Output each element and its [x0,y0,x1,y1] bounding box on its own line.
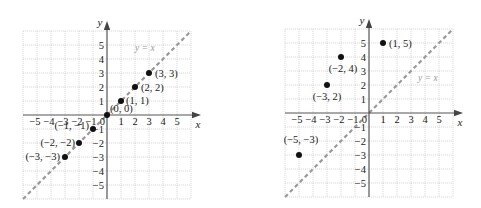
data-point-label: (1, 5) [389,38,412,50]
data-point [90,126,96,132]
y-tick-label: 2 [361,80,366,91]
y-axis-arrow-icon [104,21,110,30]
y-tick-label: −5 [355,178,366,189]
y-tick-label: 2 [99,82,104,93]
data-point [62,154,68,160]
x-tick-label: −3 [319,114,330,125]
data-point-label: (−3, −3) [25,151,60,163]
x-tick-label: 2 [394,114,399,125]
data-point-label: (−5, −3) [284,134,319,146]
chart-panel-2: y = xxy−5−4−3−2−11234554321−1−2−3−4−50(1… [284,14,463,197]
y-axis-label: y [97,16,103,28]
data-point [296,152,302,158]
y-tick-label: 5 [361,38,366,49]
y-tick-label: −2 [93,138,104,149]
x-tick-label: 4 [160,116,166,127]
x-tick-label: 2 [132,116,137,127]
origin-label: 0 [100,116,105,127]
x-tick-label: 4 [422,114,428,125]
data-point [380,40,386,46]
x-tick-label: −2 [333,114,344,125]
x-tick-label: 1 [118,116,123,127]
data-point [132,84,138,90]
y-tick-label: 4 [99,54,105,65]
origin-label: 0 [362,114,367,125]
x-tick-label: −4 [305,114,317,125]
data-point-label: (0, 0) [110,103,133,115]
y-tick-label: −3 [93,152,104,163]
y-tick-label: 3 [361,66,366,77]
y-tick-label: 1 [99,96,104,107]
x-axis-label: x [195,118,201,130]
data-point-label: (−1, −1) [54,120,89,132]
x-tick-label: −5 [291,114,302,125]
y-tick-label: 5 [99,40,104,51]
y-tick-label: −2 [355,136,366,147]
y-tick-label: −4 [355,164,367,175]
data-point [146,70,152,76]
x-tick-label: 5 [436,114,441,125]
y-tick-label: −4 [93,166,105,177]
x-tick-label: 3 [408,114,413,125]
x-tick-label: 5 [174,116,179,127]
y-tick-label: −3 [355,150,366,161]
x-tick-label: 1 [380,114,385,125]
reference-line-label: y = x [417,73,438,83]
y-tick-label: 4 [361,52,367,63]
data-point-label: (−2, 4) [329,63,358,75]
data-point-label: (2, 2) [141,82,164,94]
y-tick-label: −5 [93,180,104,191]
x-axis-label: x [457,116,463,128]
data-point [338,54,344,60]
y-axis-arrow-icon [366,19,372,28]
data-point-label: (−2, −2) [40,137,75,149]
data-point-label: (−3, 2) [313,91,342,103]
data-point [324,82,330,88]
figure-canvas: y = xxy−5−4−3−2−11234554321−1−2−3−4−50(3… [0,0,481,208]
data-point-label: (3, 3) [155,68,178,80]
y-axis-label: y [359,14,365,26]
x-tick-label: 3 [146,116,151,127]
data-point [76,140,82,146]
reference-line-label: y = x [134,43,155,53]
x-tick-label: −5 [29,116,40,127]
chart-panel-1: y = xxy−5−4−3−2−11234554321−1−2−3−4−50(3… [23,16,201,199]
y-tick-label: 1 [361,94,366,105]
y-tick-label: 3 [99,68,104,79]
